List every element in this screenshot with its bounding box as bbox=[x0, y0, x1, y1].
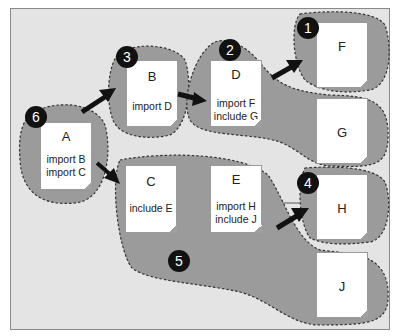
arrow-d-to-f bbox=[272, 60, 303, 78]
badge-1: 1 bbox=[297, 17, 319, 39]
arrow-e-to-h bbox=[277, 208, 309, 228]
arrows-layer bbox=[0, 0, 397, 336]
badge-6: 6 bbox=[25, 106, 47, 128]
badge-5: 5 bbox=[168, 250, 190, 272]
arrow-b-to-d bbox=[178, 92, 207, 106]
badge-4: 4 bbox=[297, 172, 319, 194]
badge-3: 3 bbox=[116, 46, 138, 68]
badge-2: 2 bbox=[219, 39, 241, 61]
arrow-a-to-c bbox=[97, 163, 120, 184]
arrow-a-to-b bbox=[82, 88, 116, 112]
